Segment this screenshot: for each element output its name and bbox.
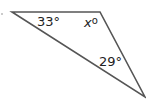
angle-label-bottom-right: 29° bbox=[99, 54, 122, 69]
triangle-diagram: 33° xo 29° bbox=[0, 0, 146, 105]
stray-dot bbox=[1, 13, 3, 15]
triangle-outline bbox=[12, 12, 145, 97]
angle-label-top-right: xo bbox=[83, 15, 98, 30]
angle-label-top-left: 33° bbox=[37, 14, 60, 29]
